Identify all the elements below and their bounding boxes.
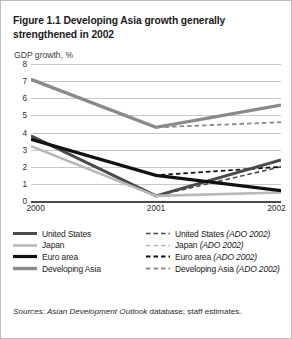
x-tick-label: 2000 [26,203,44,213]
legend-label-text: United States [42,229,91,239]
legend-item-united-states[interactable]: United States [13,228,146,239]
legend-label-text: Japan [175,240,197,250]
legend-row: Euro areaEuro area (ADO 2002) [13,251,281,263]
legend-label-text: Euro area [42,252,78,262]
y-axis-ticks: 012345678 [13,64,27,201]
legend-label-text: United States [175,229,224,239]
legend-label-suffix: (ADO 2002) [200,240,244,250]
sources-note: Sources: Asian Development Outlook datab… [13,306,271,317]
legend-item-euro-area-ado-2002[interactable]: Euro area (ADO 2002) [146,251,281,262]
chart-plot-area: 012345678 200020012002 [13,64,281,216]
x-tick-label: 2002 [267,203,285,213]
legend-label-japan: Japan [42,240,64,250]
legend-label-text: Japan [42,240,64,250]
series-line-euro-area [31,139,281,190]
legend-item-japan-ado-2002[interactable]: Japan (ADO 2002) [146,240,281,251]
legend-label-suffix: (ADO 2002) [236,264,280,274]
legend-swatch-united-states [13,228,37,239]
figure-container: Figure 1.1 Developing Asia growth genera… [0,0,292,339]
legend-item-developing-asia[interactable]: Developing Asia [13,263,146,274]
legend-item-developing-asia-ado-2002[interactable]: Developing Asia (ADO 2002) [146,263,281,274]
legend-row: JapanJapan (ADO 2002) [13,240,281,252]
y-tick-label: 0 [13,196,27,206]
legend-label-suffix: (ADO 2002) [213,252,257,262]
legend-label-text: Developing Asia [175,264,234,274]
legend-item-euro-area[interactable]: Euro area [13,251,146,262]
legend-swatch-developing-asia [13,263,37,274]
chart-series-svg [31,64,281,201]
x-tick-label: 2001 [147,203,165,213]
legend-label-developing-asia: Developing Asia [42,264,101,274]
y-tick-label: 4 [13,128,27,138]
series-line-developing-asia-ado-2002 [31,79,281,127]
legend-swatch-developing-asia-ado-2002 [146,263,170,274]
sources-label: Sources: [13,307,45,316]
legend-swatch-united-states-ado-2002 [146,228,170,239]
legend-item-united-states-ado-2002[interactable]: United States (ADO 2002) [146,228,281,239]
legend-swatch-japan [13,240,37,251]
y-tick-label: 2 [13,162,27,172]
legend-label-suffix: (ADO 2002) [226,229,270,239]
legend-label-united-states: United States [42,229,91,239]
sources-rest: database; staff estimates. [149,307,241,316]
legend-swatch-euro-area [13,251,37,262]
y-tick-label: 6 [13,93,27,103]
series-line-developing-asia [31,79,281,127]
legend-label-text: Developing Asia [42,264,101,274]
chart-legend: United StatesUnited States (ADO 2002)Jap… [13,228,281,274]
legend-item-japan[interactable]: Japan [13,240,146,251]
y-tick-label: 1 [13,179,27,189]
y-axis-caption: GDP growth, % [14,50,281,60]
legend-label-euro-area: Euro area [42,252,78,262]
legend-row: United StatesUnited States (ADO 2002) [13,228,281,240]
y-tick-label: 7 [13,76,27,86]
y-tick-label: 3 [13,145,27,155]
legend-label-developing-asia-ado-2002: Developing Asia (ADO 2002) [175,264,280,274]
figure-title: Figure 1.1 Developing Asia growth genera… [13,14,263,41]
legend-swatch-euro-area-ado-2002 [146,251,170,262]
x-axis-ticks: 200020012002 [31,203,281,217]
y-tick-label: 8 [13,59,27,69]
legend-row: Developing AsiaDeveloping Asia (ADO 2002… [13,263,281,275]
legend-label-japan-ado-2002: Japan (ADO 2002) [175,240,244,250]
legend-swatch-japan-ado-2002 [146,240,170,251]
sources-publication: Asian Development Outlook [45,307,150,316]
legend-label-text: Euro area [175,252,211,262]
legend-label-united-states-ado-2002: United States (ADO 2002) [175,229,270,239]
legend-label-euro-area-ado-2002: Euro area (ADO 2002) [175,252,257,262]
y-tick-label: 5 [13,110,27,120]
